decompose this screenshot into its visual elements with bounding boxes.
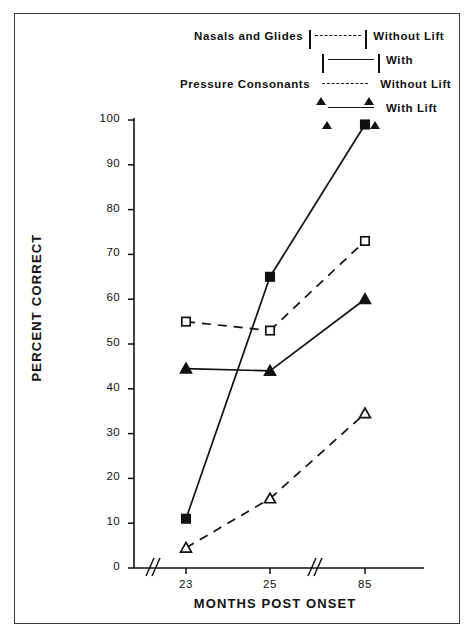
square-open-icon xyxy=(365,31,367,49)
legend-row-pressure-with-lift: With Lift xyxy=(180,98,437,118)
legend-line-dashed xyxy=(315,35,361,36)
legend-condition-label: With Lift xyxy=(386,102,437,114)
triangle-filled-icon xyxy=(370,104,380,122)
triangle-open-icon xyxy=(364,80,374,98)
legend-group-label: Pressure Consonants xyxy=(180,78,310,90)
legend-sample-square-filled-solid xyxy=(322,53,380,67)
legend-sample-square-open-dashed xyxy=(309,29,367,43)
legend-condition-label: With xyxy=(386,54,413,66)
legend-sample-triangle-open-dashed xyxy=(316,77,374,91)
legend-sample-triangle-filled-solid xyxy=(322,101,380,115)
legend-line-dashed xyxy=(322,83,368,84)
triangle-open-icon xyxy=(316,80,326,98)
legend-line-solid xyxy=(328,59,374,60)
figure-container: Nasals and Glides Without Lift With Pres… xyxy=(0,0,474,638)
square-filled-icon xyxy=(378,55,380,73)
legend-condition-label: Without Lift xyxy=(380,78,451,90)
triangle-filled-icon xyxy=(322,104,332,122)
legend-row-nasals-with: With xyxy=(194,50,413,70)
square-open-icon xyxy=(309,31,311,49)
legend-condition-label: Without Lift xyxy=(373,30,444,42)
legend-row-pressure-without-lift: Pressure Consonants Without Lift xyxy=(180,74,451,94)
legend-group-label: Nasals and Glides xyxy=(194,30,303,42)
legend-row-nasals-without-lift: Nasals and Glides Without Lift xyxy=(194,26,444,46)
square-filled-icon xyxy=(322,55,324,73)
chart-legend: Nasals and Glides Without Lift With Pres… xyxy=(14,18,460,114)
legend-line-solid xyxy=(328,107,374,108)
